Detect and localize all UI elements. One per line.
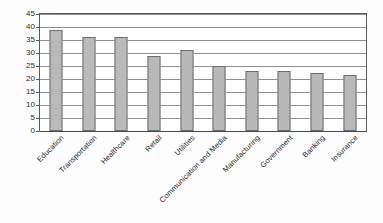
y-axis-label-40: 40 — [26, 23, 35, 31]
bar-slot — [203, 14, 236, 131]
bar-slot — [268, 14, 301, 131]
bar[interactable] — [245, 71, 258, 131]
x-axis-label: Healthcare — [99, 134, 131, 166]
bar[interactable] — [50, 30, 63, 131]
y-axis-label-0: 0 — [31, 127, 35, 135]
y-axis-label-15: 15 — [26, 88, 35, 96]
y-axis-label-25: 25 — [26, 62, 35, 70]
y-axis-label-30: 30 — [26, 49, 35, 57]
y-axis-label-5: 5 — [31, 114, 35, 122]
x-axis-label: Government — [259, 134, 294, 169]
bar[interactable] — [213, 66, 226, 131]
x-axis-label: Communication and Media — [159, 134, 229, 204]
bar[interactable] — [343, 75, 356, 131]
bar-slot — [73, 14, 106, 131]
x-axis-label: Retail — [144, 134, 163, 153]
x-axis-labels-group: EducationTransportationHealthcareRetailU… — [39, 132, 367, 223]
bars-group — [40, 14, 366, 131]
chart-container: 454035302520151050 EducationTransportati… — [0, 0, 383, 223]
bar[interactable] — [148, 56, 161, 131]
bar[interactable] — [115, 37, 128, 131]
x-axis-label: Education — [36, 134, 66, 164]
bar[interactable] — [311, 73, 324, 131]
x-axis-label: Insurance — [330, 134, 359, 163]
y-axis-label-45: 45 — [26, 10, 35, 18]
x-axis-label: Utilities — [173, 134, 196, 157]
y-axis-label-35: 35 — [26, 36, 35, 44]
bar-slot — [170, 14, 203, 131]
plot-area: 454035302520151050 — [39, 13, 367, 132]
bar[interactable] — [278, 71, 291, 131]
bar[interactable] — [82, 37, 95, 131]
x-axis-label: Banking — [301, 134, 326, 159]
bar-slot — [236, 14, 269, 131]
bar-slot — [138, 14, 171, 131]
bar[interactable] — [180, 50, 193, 131]
bar-slot — [105, 14, 138, 131]
y-axis-label-10: 10 — [26, 101, 35, 109]
bar-slot — [301, 14, 334, 131]
bar-slot — [333, 14, 366, 131]
bar-slot — [40, 14, 73, 131]
y-axis-label-20: 20 — [26, 75, 35, 83]
